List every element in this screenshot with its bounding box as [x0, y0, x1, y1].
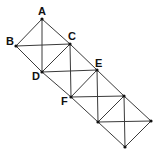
diagonal-d-e: [42, 70, 97, 72]
diagonal-b-c: [16, 44, 70, 46]
points: [14, 17, 152, 148]
edge-g-i: [124, 96, 151, 121]
label-b: B: [6, 35, 14, 47]
edge-e-g: [97, 70, 124, 96]
edge-e-f: [71, 70, 97, 97]
edge-h-j: [98, 122, 125, 147]
edge-d-f: [42, 72, 71, 97]
label-c: C: [68, 30, 76, 42]
square-chain-diagram: A B C D E F: [0, 0, 164, 155]
point-g: [122, 94, 125, 97]
labels: A B C D E F: [6, 5, 102, 107]
point-i: [149, 119, 152, 122]
point-d: [40, 70, 43, 73]
edge-a-b: [16, 19, 42, 46]
label-e: E: [95, 57, 102, 69]
point-b: [14, 44, 17, 47]
label-f: F: [61, 95, 68, 107]
diagonal-f-g: [71, 96, 124, 97]
edge-g-h: [98, 96, 124, 122]
edge-c-e: [70, 44, 97, 70]
edge-b-d: [16, 46, 42, 72]
point-a: [40, 17, 43, 20]
edge-i-j: [125, 121, 151, 147]
edges: [16, 19, 151, 147]
diagonal-h-i: [98, 121, 151, 122]
point-c: [68, 42, 71, 45]
edge-c-d: [42, 44, 70, 72]
edge-f-h: [71, 97, 98, 122]
point-f: [69, 95, 72, 98]
point-j: [123, 145, 126, 148]
point-h: [96, 120, 99, 123]
edge-a-c: [42, 19, 70, 44]
label-d: D: [32, 70, 40, 82]
label-a: A: [38, 5, 46, 17]
